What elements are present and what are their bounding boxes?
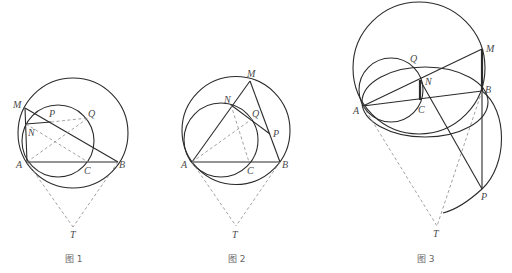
fig3-label-B: B: [485, 84, 491, 95]
fig3-right-arc: [443, 91, 502, 213]
fig1-dashed-PQ: [51, 118, 88, 122]
fig1-label-T: T: [70, 229, 77, 240]
fig1-label-P: P: [48, 108, 55, 119]
fig1-label-Q: Q: [88, 108, 96, 119]
fig2-label-B: B: [282, 159, 288, 170]
fig3-segment-NP: [420, 80, 482, 189]
fig2-dashed-BT: [236, 162, 280, 226]
fig2-segment-AM: [192, 81, 250, 162]
fig2-label-N: N: [223, 94, 232, 105]
fig1-label-B: B: [119, 159, 125, 170]
figure-2: M N Q P A C B T 图 2: [180, 68, 290, 264]
fig3-label-C: C: [418, 104, 425, 115]
fig2-dashed-AQ: [192, 119, 252, 162]
figure-3: M Q N B A C P T 图 3: [352, 2, 502, 264]
fig1-dashed-BT: [73, 162, 118, 227]
fig2-caption: 图 2: [228, 254, 246, 264]
fig3-caption: 图 3: [417, 254, 435, 264]
fig1-label-M: M: [12, 99, 22, 110]
fig3-label-A: A: [352, 105, 360, 116]
fig2-label-M: M: [246, 68, 256, 79]
fig2-label-A: A: [180, 159, 188, 170]
figure-1: M N P Q A C B T 图 1: [12, 78, 128, 264]
fig1-dashed-NC: [26, 124, 88, 162]
fig1-segment-NP: [26, 122, 51, 124]
fig3-label-Q: Q: [410, 53, 418, 64]
fig3-label-N: N: [424, 76, 433, 87]
fig2-dashed-AT: [192, 162, 236, 226]
fig3-label-T: T: [433, 228, 440, 239]
fig1-dashed-AQ: [27, 118, 88, 162]
fig3-label-M: M: [485, 43, 495, 54]
fig2-label-Q: Q: [252, 108, 260, 119]
fig2-label-T: T: [232, 229, 239, 240]
fig1-label-C: C: [84, 165, 91, 176]
geometry-figures: M N P Q A C B T 图 1 M N Q P A C B T 图 2: [0, 0, 512, 273]
fig1-label-A: A: [15, 159, 23, 170]
fig1-dashed-AT: [27, 162, 73, 227]
fig1-segment-MA: [25, 108, 27, 162]
fig1-caption: 图 1: [65, 254, 83, 264]
fig3-label-P: P: [480, 191, 487, 202]
fig1-segment-MB: [25, 108, 118, 162]
fig1-label-N: N: [27, 127, 36, 138]
fig2-label-P: P: [272, 128, 279, 139]
fig2-label-C: C: [247, 165, 254, 176]
fig3-dashed-AT: [363, 106, 437, 226]
